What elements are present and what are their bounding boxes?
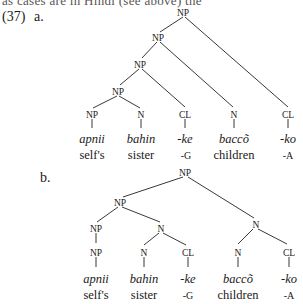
tree-b-word: bahin — [130, 272, 158, 286]
tree-b-root-np: NP — [179, 168, 191, 178]
tree-a-np2: NP — [152, 33, 164, 43]
tree-b-gloss: self's — [83, 288, 108, 302]
tree-b-np-left: NP — [114, 198, 126, 208]
tree-a-leaf-cl2: CL — [282, 110, 294, 120]
tree-b-gloss: -A — [284, 290, 295, 301]
tree-a-gloss: sister — [128, 148, 155, 162]
tree-b-n-mid: N — [158, 224, 165, 234]
tree-a-word: -ke — [177, 132, 193, 146]
tree-a-gloss: self's — [79, 148, 104, 162]
tree-b: NP NP N NP N NP N CL N CL apnii bahin -k… — [83, 168, 297, 302]
tree-a-word: apnii — [79, 132, 105, 146]
tree-b-word: apnii — [83, 272, 109, 286]
tree-b-gloss: children — [218, 288, 260, 302]
tree-a-word: baccõ — [219, 132, 250, 146]
tree-b-cl-ko: CL — [283, 248, 295, 258]
tree-a-np4: NP — [112, 87, 124, 97]
syntax-trees: NP NP NP NP NP N CL N CL apnii bahin -ke… — [0, 0, 303, 304]
tree-b-gloss: -G — [183, 290, 194, 301]
tree-b-np-a: NP — [90, 224, 102, 234]
tree-b-n-bacco: N — [235, 248, 242, 258]
tree-a-leaf-n2: N — [231, 110, 238, 120]
tree-b-np-leaf: NP — [90, 248, 102, 258]
tree-a-np3: NP — [134, 60, 146, 70]
tree-b-gloss: sister — [131, 288, 158, 302]
tree-b-word: baccõ — [223, 272, 254, 286]
tree-b-word: -ke — [180, 272, 196, 286]
tree-a-leaf-cl: CL — [179, 110, 191, 120]
tree-b-cl-ke: CL — [182, 248, 194, 258]
tree-a-gloss: -A — [283, 150, 294, 161]
tree-b-n-right: N — [253, 220, 260, 230]
tree-a-leaf-n: N — [138, 110, 145, 120]
tree-b-n-bahin: N — [141, 248, 148, 258]
tree-a-word: bahin — [127, 132, 155, 146]
tree-a-leaf-np: NP — [86, 110, 98, 120]
tree-b-word: -ko — [281, 272, 297, 286]
tree-a-gloss: children — [214, 148, 256, 162]
tree-a: NP NP NP NP NP N CL N CL apnii bahin -ke… — [79, 8, 296, 162]
tree-a-gloss: -G — [181, 150, 192, 161]
tree-a-word: -ko — [280, 132, 296, 146]
tree-a-root-np: NP — [177, 8, 189, 18]
